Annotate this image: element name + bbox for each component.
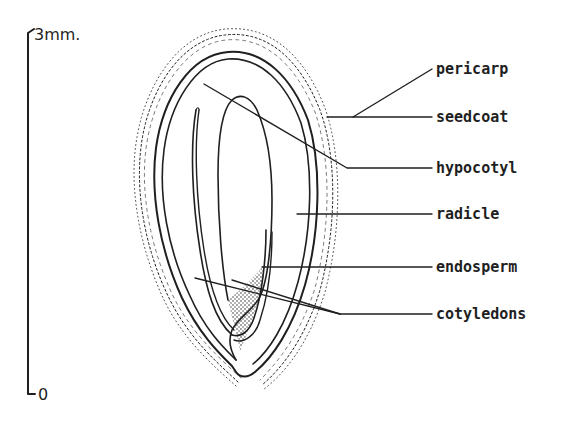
label-endosperm: endosperm	[436, 258, 517, 276]
label-pericarp: pericarp	[436, 60, 508, 78]
label-hypocotyl: hypocotyl	[436, 159, 517, 177]
scale-bar: 3mm. 0	[28, 25, 80, 404]
scale-bottom-label: 0	[38, 385, 48, 404]
seed-diagram: 3mm. 0 pericarp seedcoat	[0, 0, 581, 422]
leader-pericarp	[353, 69, 432, 117]
scale-top-label: 3mm.	[34, 25, 80, 44]
labels: pericarp seedcoat hypocotyl radicle endo…	[436, 60, 526, 323]
label-radicle: radicle	[436, 205, 499, 223]
leader-lines	[195, 69, 432, 314]
label-seedcoat: seedcoat	[436, 108, 508, 126]
label-cotyledons: cotyledons	[436, 305, 526, 323]
